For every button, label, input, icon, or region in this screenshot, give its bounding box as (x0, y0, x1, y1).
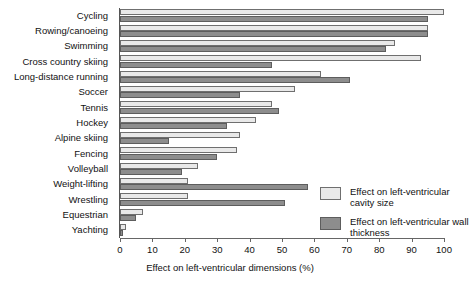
x-tick-label-80: 80 (364, 244, 394, 255)
category-label-yachting: Yachting (0, 225, 108, 235)
bar-wall-soccer (120, 92, 240, 98)
x-tick-30 (217, 238, 218, 242)
bar-wall-rowing-canoeing (120, 31, 428, 37)
bar-cavity-equestrian (120, 209, 143, 215)
bar-wall-hockey (120, 123, 227, 129)
category-label-equestrian: Equestrian (0, 210, 108, 220)
x-tick-label-40: 40 (235, 244, 265, 255)
bar-wall-long-distance-running (120, 77, 350, 83)
x-tick-label-70: 70 (332, 244, 362, 255)
category-label-weight-lifting: Weight-lifting (0, 179, 108, 189)
category-label-soccer: Soccer (0, 87, 108, 97)
bar-cavity-wrestling (120, 193, 188, 199)
category-label-volleyball: Volleyball (0, 164, 108, 174)
x-tick-label-10: 10 (137, 244, 167, 255)
x-tick-label-60: 60 (299, 244, 329, 255)
x-tick-50 (282, 238, 283, 242)
x-tick-40 (250, 238, 251, 242)
category-label-alpine-skiing: Alpine skiing (0, 133, 108, 143)
bar-cavity-hockey (120, 117, 256, 123)
x-tick-100 (444, 238, 445, 242)
bar-wall-yachting (120, 230, 123, 236)
bar-cavity-cross-country-skiing (120, 55, 421, 61)
category-label-hockey: Hockey (0, 118, 108, 128)
x-axis-title: Effect on left-ventricular dimensions (%… (0, 262, 460, 273)
x-tick-70 (347, 238, 348, 242)
bar-cavity-long-distance-running (120, 71, 321, 77)
bar-wall-swimming (120, 46, 386, 52)
bar-wall-volleyball (120, 169, 182, 175)
x-tick-label-0: 0 (105, 244, 135, 255)
x-tick-90 (412, 238, 413, 242)
bar-cavity-cycling (120, 9, 444, 15)
bar-cavity-soccer (120, 86, 295, 92)
category-label-swimming: Swimming (0, 41, 108, 51)
bar-cavity-fencing (120, 147, 237, 153)
x-tick-label-30: 30 (202, 244, 232, 255)
bar-cavity-weight-lifting (120, 178, 188, 184)
category-axis-labels: CyclingRowing/canoeingSwimmingCross coun… (0, 8, 112, 238)
category-label-cross-country-skiing: Cross country skiing (0, 57, 108, 67)
bar-wall-cross-country-skiing (120, 62, 272, 68)
bar-wall-tennis (120, 108, 279, 114)
x-tick-20 (185, 238, 186, 242)
x-tick-80 (379, 238, 380, 242)
x-tick-60 (314, 238, 315, 242)
legend-swatch-wall-icon (320, 217, 341, 230)
category-label-wrestling: Wrestling (0, 195, 108, 205)
bar-wall-weight-lifting (120, 184, 308, 190)
bar-wall-equestrian (120, 215, 136, 221)
legend-label-wall: Effect on left-ventricular wall thicknes… (350, 216, 473, 238)
category-label-cycling: Cycling (0, 11, 108, 21)
category-label-fencing: Fencing (0, 149, 108, 159)
bar-wall-wrestling (120, 200, 285, 206)
bar-wall-cycling (120, 16, 428, 22)
x-tick-label-100: 100 (429, 244, 459, 255)
category-label-tennis: Tennis (0, 103, 108, 113)
bar-cavity-yachting (120, 224, 126, 230)
bar-cavity-alpine-skiing (120, 132, 240, 138)
bar-cavity-swimming (120, 40, 395, 46)
x-tick-label-20: 20 (170, 244, 200, 255)
category-label-rowing-canoeing: Rowing/canoeing (0, 26, 108, 36)
bar-wall-fencing (120, 154, 217, 160)
legend-swatch-cavity-icon (320, 187, 341, 200)
x-tick-label-90: 90 (397, 244, 427, 255)
bar-cavity-volleyball (120, 163, 198, 169)
x-tick-10 (152, 238, 153, 242)
category-label-long-distance-running: Long-distance running (0, 72, 108, 82)
bar-wall-alpine-skiing (120, 138, 169, 144)
x-tick-label-50: 50 (267, 244, 297, 255)
bar-cavity-tennis (120, 101, 272, 107)
bar-cavity-rowing-canoeing (120, 25, 428, 31)
legend-label-cavity: Effect on left-ventricular cavity size (350, 186, 473, 208)
x-tick-0 (120, 238, 121, 242)
